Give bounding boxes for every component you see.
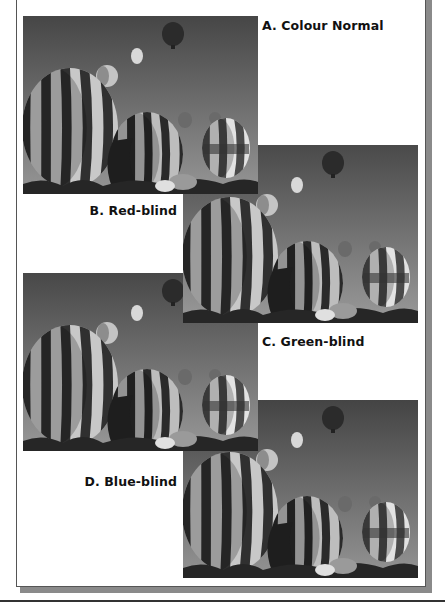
small-balloon bbox=[322, 151, 344, 175]
small-balloon bbox=[131, 305, 143, 321]
small-balloon bbox=[338, 496, 352, 512]
photo-colour-normal bbox=[23, 16, 258, 194]
small-balloon bbox=[162, 22, 184, 46]
small-balloon bbox=[291, 432, 303, 448]
small-balloon bbox=[338, 241, 352, 257]
panel-label-colour-normal: A. Colour Normal bbox=[262, 18, 384, 33]
panel-label-green-blind: C. Green-blind bbox=[262, 334, 365, 349]
small-balloon bbox=[131, 48, 143, 64]
small-balloon bbox=[178, 112, 192, 128]
small-balloon bbox=[322, 406, 344, 430]
panel-label-red-blind: B. Red-blind bbox=[90, 203, 177, 218]
panel-label-blue-blind: D. Blue-blind bbox=[84, 474, 177, 489]
small-balloon bbox=[178, 369, 192, 385]
small-balloon bbox=[291, 177, 303, 193]
bottom-rule bbox=[0, 600, 445, 602]
balloon-photo bbox=[23, 16, 258, 194]
small-balloon bbox=[162, 279, 184, 303]
